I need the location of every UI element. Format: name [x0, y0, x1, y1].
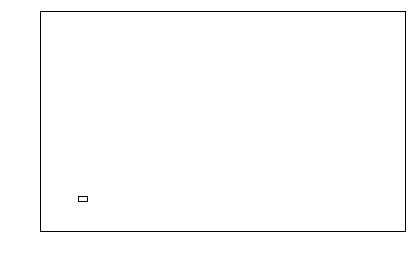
stacked-area-chart [41, 12, 405, 231]
plot-area [40, 11, 406, 232]
chart-legend [78, 196, 88, 202]
figure-b [0, 0, 416, 279]
x-axis-ticks [40, 234, 406, 250]
y-axis-ticks [0, 11, 37, 232]
